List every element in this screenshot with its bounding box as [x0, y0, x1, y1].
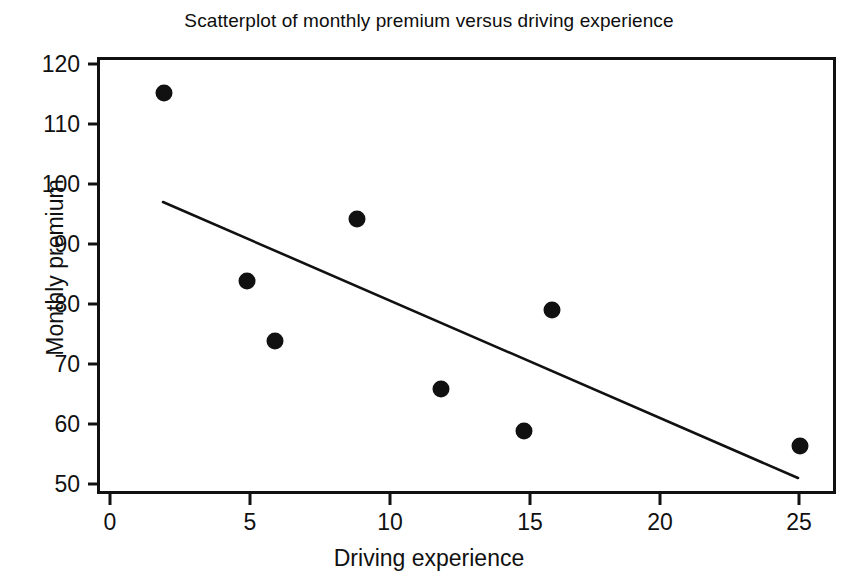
- data-point: [544, 302, 561, 319]
- plot-area: [0, 0, 858, 584]
- plot-frame: [99, 59, 835, 493]
- x-tick-label-25: 25: [769, 509, 829, 536]
- data-point: [349, 211, 366, 228]
- x-tick-label-15: 15: [500, 509, 560, 536]
- x-tick-label-5: 5: [220, 509, 280, 536]
- data-point: [516, 423, 533, 440]
- y-axis-title: Monthly premium: [42, 118, 69, 418]
- x-tick-label-20: 20: [630, 509, 690, 536]
- y-axis-ticks: [88, 64, 98, 484]
- x-tick-label-10: 10: [360, 509, 420, 536]
- x-tick-label-0: 0: [80, 509, 140, 536]
- y-tick-label-120: 120: [8, 51, 80, 78]
- scatterplot-figure: Scatterplot of monthly premium versus dr…: [0, 0, 858, 584]
- x-axis-title: Driving experience: [0, 545, 858, 572]
- data-point: [267, 333, 284, 350]
- data-point: [792, 438, 809, 455]
- data-point: [156, 85, 173, 102]
- data-point: [433, 381, 450, 398]
- data-point: [239, 273, 256, 290]
- y-tick-label-50: 50: [8, 471, 80, 498]
